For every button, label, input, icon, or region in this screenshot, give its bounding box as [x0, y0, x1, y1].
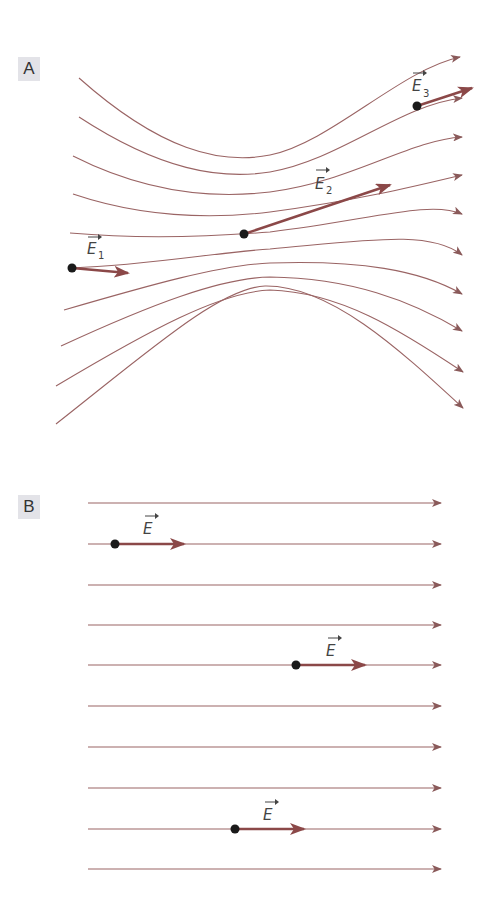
charge-dot: [292, 661, 301, 670]
label-e2: E 2: [315, 167, 332, 196]
label-e3: E 3: [412, 70, 429, 99]
field-diagram: E 1 E 2 E 3 E E: [0, 0, 483, 907]
vector-b1: E: [111, 513, 185, 549]
field-line: [56, 290, 463, 386]
svg-text:E: E: [412, 77, 422, 95]
svg-text:E: E: [326, 642, 336, 660]
label-e1: E 1: [87, 234, 104, 261]
svg-text:E: E: [263, 806, 273, 824]
vector-b2: E: [292, 635, 366, 670]
field-line: [73, 137, 462, 194]
svg-text:E: E: [143, 520, 153, 538]
svg-text:E: E: [87, 240, 97, 258]
field-line: [73, 175, 462, 216]
field-line: [70, 209, 462, 237]
charge-dot: [111, 540, 120, 549]
panel-a-field-lines: [56, 57, 463, 424]
field-line: [56, 286, 463, 424]
charge-dot: [231, 825, 240, 834]
svg-text:E: E: [315, 175, 325, 193]
field-line: [61, 277, 462, 346]
vector-b3: E: [231, 799, 305, 834]
field-line: [79, 57, 460, 158]
svg-text:1: 1: [98, 250, 104, 261]
svg-text:3: 3: [423, 88, 429, 99]
charge-dot: [240, 230, 249, 239]
charge-dot: [68, 264, 77, 273]
field-line: [79, 98, 462, 174]
svg-text:2: 2: [326, 185, 332, 196]
charge-dot: [413, 102, 422, 111]
